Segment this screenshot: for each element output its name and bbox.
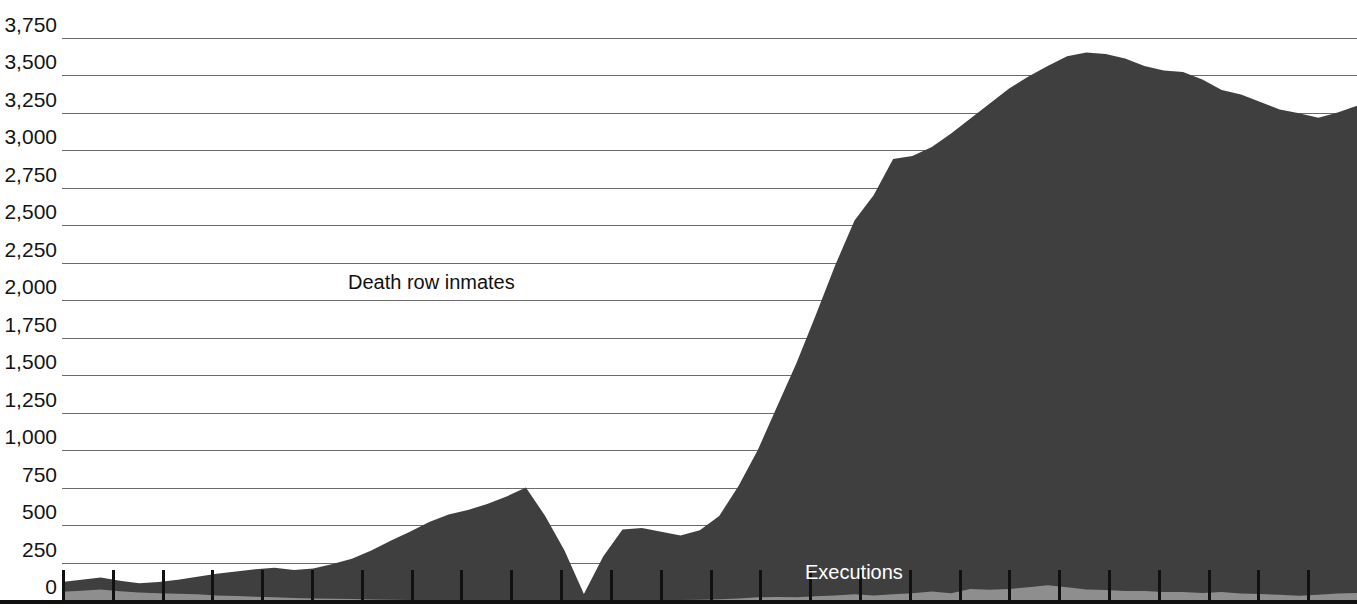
y-axis-tick-label-1750: 1,750 [4,314,57,335]
plot-area [62,0,1357,613]
x-axis-ticks [62,0,1357,613]
chart-container: 3,7503,5003,2503,0002,7502,5002,2502,000… [0,0,1357,613]
x-axis-tick [959,570,962,600]
y-axis-tick-label-1000: 1,000 [4,426,57,447]
x-axis-tick [660,570,663,600]
x-axis-tick [1008,570,1011,600]
y-axis-tick-label-3250: 3,250 [4,89,57,110]
x-axis-tick [909,570,912,600]
y-axis-tick-label-250: 250 [22,539,57,560]
y-axis-labels: 3,7503,5003,2503,0002,7502,5002,2502,000… [0,0,57,613]
x-axis-tick [112,570,115,600]
y-axis-tick-label-2250: 2,250 [4,239,57,260]
x-axis-tick [162,570,165,600]
x-axis-tick [610,570,613,600]
x-axis-tick [1058,570,1061,600]
y-axis-tick-label-0: 0 [45,576,57,597]
x-axis-tick [710,570,713,600]
x-axis-tick [460,570,463,600]
x-axis-tick [261,570,264,600]
x-axis-tick [1257,570,1260,600]
series-label-death-row-inmates: Death row inmates [348,272,515,292]
y-axis-tick-label-3000: 3,000 [4,126,57,147]
x-axis-tick [211,570,214,600]
x-axis-tick [560,570,563,600]
series-label-executions: Executions [805,562,903,582]
y-axis-tick-label-2500: 2,500 [4,201,57,222]
y-axis-tick-label-1250: 1,250 [4,389,57,410]
y-axis-tick-label-750: 750 [22,464,57,485]
y-axis-tick-label-3500: 3,500 [4,51,57,72]
y-axis-tick-label-2750: 2,750 [4,164,57,185]
y-axis-tick-label-3750: 3,750 [4,14,57,35]
y-axis-tick-label-2000: 2,000 [4,276,57,297]
x-axis-tick [510,570,513,600]
x-axis-tick [311,570,314,600]
y-axis-tick-label-1500: 1,500 [4,351,57,372]
x-axis-tick [361,570,364,600]
x-axis-tick [1158,570,1161,600]
x-axis-tick [759,570,762,600]
y-axis-tick-label-500: 500 [22,501,57,522]
x-axis-tick [411,570,414,600]
x-axis-tick [1307,570,1310,600]
x-axis-tick [1108,570,1111,600]
x-axis-baseline [0,600,1357,604]
x-axis-tick [62,570,65,600]
x-axis-tick [1208,570,1211,600]
